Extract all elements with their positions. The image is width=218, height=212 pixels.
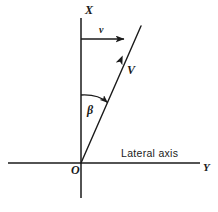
vertical-axis-label: X [85, 4, 93, 16]
vector-diagram-figure: X Y O v V β Lateral axis [0, 0, 218, 212]
diagram-canvas [0, 0, 218, 212]
resultant-vector-line [81, 26, 141, 163]
resultant-vector-arrowhead [113, 56, 123, 78]
component-vector-label: v [99, 25, 103, 35]
resultant-vector-group [81, 26, 141, 163]
beta-angle-arc [81, 95, 108, 103]
angle-arc-group [81, 95, 108, 103]
lateral-axis-caption: Lateral axis [121, 148, 178, 159]
beta-angle-label: β [87, 104, 93, 116]
horizontal-axis-label: Y [203, 162, 210, 173]
origin-label: O [71, 164, 80, 176]
resultant-vector-label: V [127, 64, 135, 76]
axis-group [8, 18, 200, 198]
